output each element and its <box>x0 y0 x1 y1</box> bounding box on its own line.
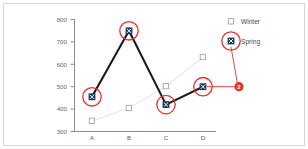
spring-point-b <box>126 27 133 34</box>
x-tick-label-c: C <box>164 134 169 141</box>
legend-label-spring: Spring <box>241 38 260 46</box>
legend-item-winter[interactable]: Winter <box>228 18 261 25</box>
line-chart: 800 700 600 500 400 300 A B C D <box>0 0 308 149</box>
chart-screenshot: 800 700 600 500 400 300 A B C D <box>0 0 308 149</box>
winter-point-c <box>163 83 168 88</box>
spring-line <box>92 31 203 105</box>
y-tick-label-600: 600 <box>57 61 68 68</box>
x-tick-label-d: D <box>201 134 206 141</box>
x-tick-label-a: A <box>90 134 95 141</box>
spring-point-d <box>200 83 207 90</box>
y-tick-label-800: 800 <box>57 16 68 23</box>
winter-point-d <box>200 54 205 59</box>
spring-point-a <box>89 93 96 100</box>
legend-item-spring[interactable]: Spring <box>228 38 261 46</box>
x-tick-label-b: B <box>127 134 131 141</box>
y-tick-label-500: 500 <box>57 83 68 90</box>
legend-swatch-winter-icon <box>228 19 233 24</box>
y-tick-label-300: 300 <box>57 128 68 135</box>
y-tick-label-700: 700 <box>57 38 68 45</box>
annotation-badge-2: 2 <box>234 82 243 91</box>
legend-label-winter: Winter <box>241 18 261 25</box>
y-tick-marks <box>71 20 75 132</box>
winter-point-a <box>89 118 94 123</box>
y-tick-label-400: 400 <box>57 105 68 112</box>
chart-axes: 800 700 600 500 400 300 A B C D <box>57 16 216 141</box>
annotation-leader-vertical <box>231 47 238 87</box>
spring-point-c <box>163 101 170 108</box>
series-winter <box>89 54 205 123</box>
winter-point-b <box>126 105 131 110</box>
